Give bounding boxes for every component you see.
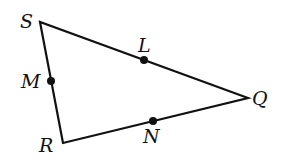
point-L [140, 56, 148, 64]
triangle-diagram: S R Q M L N [0, 0, 286, 167]
label-Q: Q [252, 87, 268, 109]
label-M: M [20, 70, 41, 92]
label-L: L [137, 34, 151, 56]
point-N [149, 117, 157, 125]
point-M [47, 77, 55, 85]
label-S: S [20, 10, 33, 32]
label-N: N [142, 125, 161, 147]
label-R: R [38, 134, 53, 156]
